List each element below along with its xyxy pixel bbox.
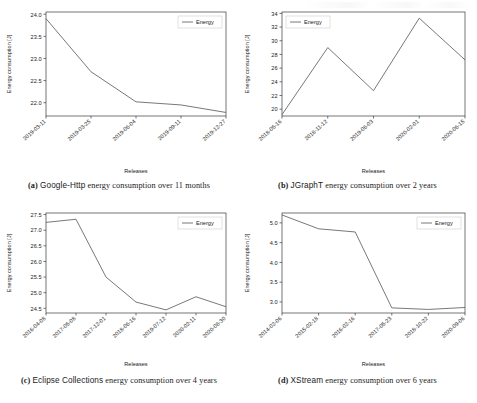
y-tick-label: 23.0 [31,56,42,62]
y-tick-label: 27.0 [31,227,42,233]
caption-c-project: Eclipse Collections [33,376,104,385]
legend-label-energy: Energy [196,220,214,226]
caption-d: (d) XStream energy consumption over 6 ye… [238,376,477,385]
legend-label-energy: Energy [435,220,453,226]
x-tick-label: 2019-03-11 [22,118,47,141]
y-axis-label: Energy consumption [J] [6,34,12,93]
caption-b-tag: (b) [278,181,288,190]
chart-xstream: 3.03.54.04.55.02014-02-062015-02-182016-… [238,203,477,375]
x-tick-label: 2018-10-22 [404,315,429,339]
y-tick-label: 20 [271,106,277,112]
figure-cell-b: 20222426283032342018-05-162018-11-122019… [238,0,477,203]
x-tick-label: 2019-12-27 [201,118,226,142]
figure-b: 20222426283032342018-05-162018-11-122019… [238,0,477,203]
x-tick-label: 2019-03-25 [66,118,91,142]
x-tick-label: 2019-06-03 [349,118,374,142]
caption-b-project: JGraphT [291,181,324,190]
x-tick-label: 2020-06-15 [440,118,465,142]
x-tick-label: 2020-09-06 [440,315,465,339]
x-tick-label: 2019-09-11 [157,118,182,141]
y-tick-label: 34 [271,11,277,17]
y-tick-label: 22.0 [31,100,42,106]
y-axis-label: Energy consumption [J] [244,34,250,93]
chart-google-http: 22.022.523.023.524.02019-03-112019-03-25… [0,0,238,182]
y-tick-label: 24 [271,79,277,85]
data-line-energy [46,19,226,113]
chart-eclipse-collections: 24.525.025.526.026.527.027.52016-04-0820… [0,203,238,375]
x-tick-label: 2017-05-08 [51,315,76,339]
caption-d-tag: (d) [278,376,288,385]
x-tick-label: 2018-05-16 [257,118,282,142]
y-tick-label: 25.5 [31,274,42,280]
x-axis-label: Releases [362,361,386,367]
x-tick-label: 2018-11-12 [303,118,328,141]
figure-a: 22.022.523.023.524.02019-03-112019-03-25… [0,0,238,203]
y-tick-label: 3.0 [270,299,278,305]
x-tick-label: 2017-05-23 [367,315,392,339]
x-tick-label: 2019-06-04 [111,118,136,142]
y-tick-label: 22.5 [31,78,42,84]
y-tick-label: 27.5 [31,212,42,218]
figure-c: 24.525.025.526.026.527.027.52016-04-0820… [0,203,238,403]
caption-c-rest: energy consumption over 4 years [105,376,217,385]
caption-a: (a) Google-Http energy consumption over … [0,181,238,190]
y-tick-label: 26.5 [31,243,42,249]
caption-a-project: Google-Http [40,181,85,190]
figure-grid: 22.022.523.023.524.02019-03-112019-03-25… [0,0,477,403]
data-line-energy [46,219,226,310]
y-tick-label: 25.0 [31,290,42,296]
x-tick-label: 2016-02-16 [331,315,356,339]
y-tick-label: 4.5 [270,240,278,246]
x-axis-label: Releases [124,361,148,367]
caption-b-rest: energy consumption over 2 years [325,181,437,190]
chart-jgrapht: 20222426283032342018-05-162018-11-122019… [238,0,477,182]
data-line-energy [282,18,465,114]
x-tick-label: 2019-07-12 [141,315,166,339]
legend-label-energy: Energy [304,19,322,25]
y-tick-label: 32 [271,24,277,30]
figure-cell-c: 24.525.025.526.026.527.027.52016-04-0820… [0,203,238,403]
figure-cell-a: 22.022.523.023.524.02019-03-112019-03-25… [0,0,238,203]
caption-a-rest: energy consumption over 11 months [87,181,209,190]
y-tick-label: 22 [271,93,277,99]
caption-d-project: XStream [291,376,324,385]
y-tick-label: 23.5 [31,34,42,40]
x-tick-label: 2015-02-18 [294,315,319,339]
x-tick-label: 2014-02-06 [257,315,282,339]
figure-cell-d: 3.03.54.04.55.02014-02-062015-02-182016-… [238,203,477,403]
caption-d-rest: energy consumption over 6 years [325,376,437,385]
y-tick-label: 26.0 [31,259,42,265]
caption-c: (c) Eclipse Collections energy consumpti… [0,376,238,385]
y-tick-label: 24.0 [31,12,42,18]
caption-c-tag: (c) [21,376,30,385]
figure-d: 3.03.54.04.55.02014-02-062015-02-182016-… [238,203,477,403]
x-tick-label: 2016-04-08 [21,315,46,339]
legend-label-energy: Energy [196,19,214,25]
x-axis-label: Releases [362,168,386,174]
y-tick-label: 26 [271,65,277,71]
y-axis-label: Energy consumption [J] [244,233,250,292]
x-tick-label: 2020-08-30 [201,315,226,339]
caption-a-tag: (a) [28,181,38,190]
y-tick-label: 24.5 [31,306,42,312]
y-tick-label: 3.5 [270,279,278,285]
y-tick-label: 4.0 [270,260,278,266]
y-axis-label: Energy consumption [J] [6,233,12,292]
x-tick-label: 2020-02-11 [172,315,197,338]
y-tick-label: 5.0 [270,220,278,226]
caption-b: (b) JGraphT energy consumption over 2 ye… [238,181,477,190]
x-tick-label: 2020-02-01 [395,118,420,142]
y-tick-label: 28 [271,52,277,58]
y-tick-label: 30 [271,38,277,44]
x-tick-label: 2017-12-01 [81,315,106,339]
x-axis-label: Releases [124,168,148,174]
x-tick-label: 2018-06-16 [111,315,136,339]
